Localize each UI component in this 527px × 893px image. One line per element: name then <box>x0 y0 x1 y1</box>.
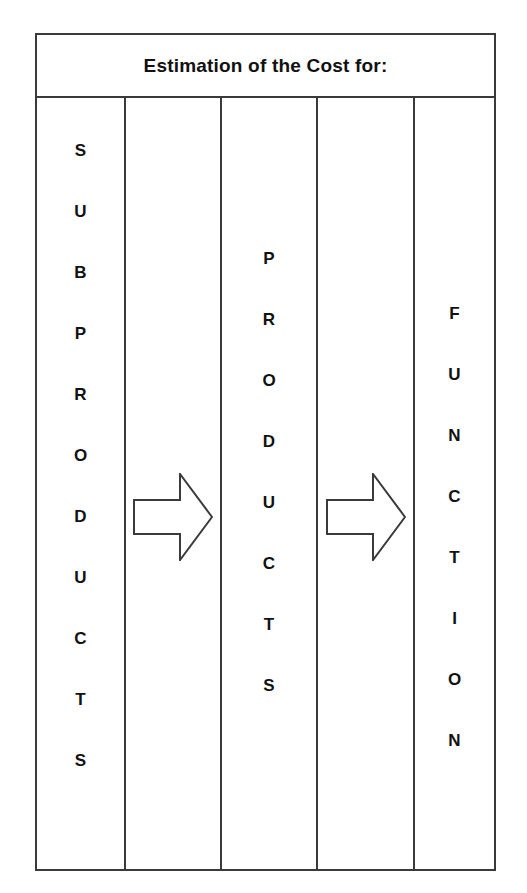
column-arrow-2 <box>318 98 415 869</box>
vertical-letter: P <box>263 228 274 289</box>
vertical-letter: D <box>263 411 275 472</box>
vertical-letter: B <box>74 242 86 303</box>
vertical-letter: O <box>448 649 461 710</box>
arrow-container-2 <box>318 473 413 561</box>
estimation-cost-diagram: Estimation of the Cost for: S U B P R O … <box>35 33 496 871</box>
vertical-letter: C <box>263 533 275 594</box>
vertical-letter: R <box>263 289 275 350</box>
vertical-letter: C <box>448 466 460 527</box>
vertical-letter: N <box>448 710 460 771</box>
diagram-header: Estimation of the Cost for: <box>37 35 494 98</box>
column-products: P R O D U C T S <box>222 98 318 869</box>
vertical-letter: U <box>448 344 460 405</box>
vertical-letter: T <box>449 527 459 588</box>
vertical-letter: S <box>75 730 86 791</box>
vertical-label-function: F U N C T I O N <box>448 283 461 771</box>
vertical-letter: T <box>264 594 274 655</box>
arrow-right-icon <box>133 473 213 561</box>
arrow-right-icon <box>326 473 406 561</box>
vertical-letter: O <box>262 350 275 411</box>
vertical-letter: U <box>74 547 86 608</box>
vertical-letter: F <box>449 283 459 344</box>
vertical-letter: S <box>263 655 274 716</box>
vertical-letter: O <box>74 425 87 486</box>
vertical-letter: U <box>74 181 86 242</box>
column-arrow-1 <box>126 98 222 869</box>
column-function: F U N C T I O N <box>415 98 494 869</box>
vertical-letter: C <box>74 608 86 669</box>
vertical-letter: D <box>74 486 86 547</box>
vertical-letter: T <box>75 669 85 730</box>
vertical-letter: N <box>448 405 460 466</box>
vertical-letter: U <box>263 472 275 533</box>
vertical-label-subproducts: S U B P R O D U C T S <box>74 120 87 791</box>
diagram-columns: S U B P R O D U C T S P R <box>37 98 494 869</box>
vertical-letter: P <box>75 303 86 364</box>
page-title: Estimation of the Cost for: <box>144 55 388 77</box>
vertical-label-products: P R O D U C T S <box>262 228 275 716</box>
vertical-letter: I <box>452 588 457 649</box>
arrow-container-1 <box>126 473 220 561</box>
vertical-letter: S <box>75 120 86 181</box>
vertical-letter: R <box>74 364 86 425</box>
column-subproducts: S U B P R O D U C T S <box>37 98 126 869</box>
